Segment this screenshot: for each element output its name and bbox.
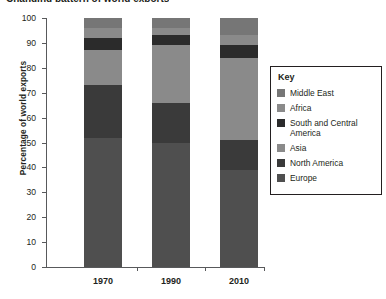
x-tick [137,267,138,271]
bar-segment-asia [220,58,258,140]
bar-segment-europe [152,143,190,268]
legend-item-europe: Europe [277,173,376,183]
legend-swatch-icon [277,144,285,152]
legend-swatch-icon [277,174,285,182]
y-tick [42,217,46,218]
legend-item-label: Europe [290,173,317,183]
bar-segment-europe [84,138,122,267]
y-tick [42,93,46,94]
y-tick [42,242,46,243]
y-tick-label: 10 [26,237,36,247]
y-tick [42,143,46,144]
bar-segment-europe [220,170,258,267]
chart-figure: Changing pattern of world exports Percen… [0,0,386,299]
y-tick-label: 50 [26,138,36,148]
y-tick [42,68,46,69]
y-tick [42,18,46,19]
bar-segment-south-and-central-america [152,35,190,45]
y-tick-label: 100 [22,13,36,23]
bar-segment-asia [84,50,122,85]
chart-title-clipped: Changing pattern of world exports [6,0,169,2]
legend-swatch-icon [277,89,285,97]
x-tick-label-2010: 2010 [229,276,249,286]
bar-segment-africa [152,28,190,35]
y-tick-label: 80 [26,63,36,73]
y-tick-label: 0 [31,262,36,272]
y-tick [42,118,46,119]
legend-item-asia: Asia [277,143,376,153]
legend-item-label: Africa [290,103,311,113]
legend-item-label: Asia [290,143,306,153]
bar-segment-middle-east [220,18,258,35]
legend-swatch-icon [277,119,285,127]
x-tick [205,267,206,271]
legend-item-label: South and Central America [290,118,376,138]
legend-swatch-icon [277,159,285,167]
y-tick-label: 70 [26,88,36,98]
legend-item-south-and-central-america: South and Central America [277,118,376,138]
plot-area: 0102030405060708090100 197019902010 [46,18,264,277]
y-tick [42,192,46,193]
legend-item-label: North America [290,158,343,168]
bar-segment-north-america [220,140,258,170]
bar-segment-north-america [152,103,190,143]
bar-segment-north-america [84,85,122,137]
bar-segment-south-and-central-america [84,38,122,50]
x-tick-label-1990: 1990 [161,276,181,286]
bar-segment-asia [152,45,190,102]
y-tick [42,167,46,168]
legend-title: Key [278,72,376,82]
legend-swatch-icon [277,104,285,112]
x-tick [264,267,265,271]
legend-item-north-america: North America [277,158,376,168]
bar-2010 [220,18,258,267]
bar-segment-africa [84,28,122,38]
y-tick-label: 90 [26,38,36,48]
legend-item-label: Middle East [290,88,334,98]
y-tick-label: 60 [26,113,36,123]
x-axis-line [46,267,264,268]
y-tick [42,267,46,268]
bar-1990 [152,18,190,267]
bar-segment-middle-east [84,18,122,28]
y-tick [42,43,46,44]
legend-item-africa: Africa [277,103,376,113]
bar-1970 [84,18,122,267]
bar-segment-africa [220,35,258,45]
bar-segment-middle-east [152,18,190,28]
legend-item-middle-east: Middle East [277,88,376,98]
y-tick-label: 20 [26,212,36,222]
bar-segment-south-and-central-america [220,45,258,57]
legend-box: Key Middle EastAfricaSouth and Central A… [270,66,382,195]
y-tick-label: 30 [26,187,36,197]
x-tick-label-1970: 1970 [93,276,113,286]
y-axis-line [46,18,47,267]
legend-items: Middle EastAfricaSouth and Central Ameri… [277,88,376,183]
y-tick-label: 40 [26,162,36,172]
